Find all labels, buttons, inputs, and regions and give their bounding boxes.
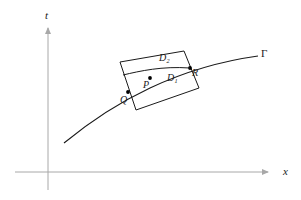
region-d2-subscript: 2 bbox=[167, 57, 170, 64]
point-P-label: P bbox=[143, 80, 149, 90]
region-d2-letter: D bbox=[159, 52, 166, 63]
x-axis-label: x bbox=[283, 166, 288, 177]
point-Q-label: Q bbox=[120, 95, 127, 105]
region-divider bbox=[123, 68, 190, 75]
region-d1-letter: D bbox=[167, 72, 174, 83]
region-d1-label: D1 bbox=[167, 73, 178, 84]
gamma-curve-label: Γ bbox=[261, 48, 267, 59]
point-R-label: R bbox=[192, 68, 198, 78]
figure-canvas bbox=[0, 0, 301, 200]
region-d1-subscript: 1 bbox=[175, 77, 178, 84]
region-d2-label: D2 bbox=[159, 53, 170, 64]
math-figure: t x Γ P Q R D1 D2 bbox=[0, 0, 301, 200]
t-axis-label: t bbox=[45, 10, 48, 21]
gamma-curve bbox=[64, 56, 258, 143]
